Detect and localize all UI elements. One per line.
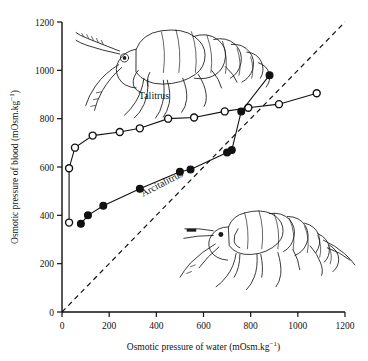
x-ticklabel-0: 0 xyxy=(60,321,65,331)
x-axis-ticks xyxy=(62,312,345,317)
datapoint-talitrus-10 xyxy=(275,101,282,108)
x-ticklabel-600: 600 xyxy=(196,321,211,331)
datapoint-arcitalitrus-8 xyxy=(238,108,245,115)
figure-container: TalitrusArcitalitrus 0200400600800100012… xyxy=(0,0,368,361)
x-ticklabel-200: 200 xyxy=(102,321,117,331)
amphipod-drawing-bottom xyxy=(180,211,355,290)
datapoint-talitrus-1 xyxy=(66,165,73,172)
datapoint-talitrus-5 xyxy=(136,125,143,132)
talitrus-label: Talitrus xyxy=(139,90,170,101)
x-ticklabel-1200: 1200 xyxy=(336,321,355,331)
series-line-arcitalitrus xyxy=(81,75,270,224)
y-ticklabel-1000: 1000 xyxy=(35,66,54,76)
x-axis-title: Osmotic pressure of water (mOsm.kg−1) xyxy=(127,340,280,353)
y-axis-title-exponent: −1 xyxy=(8,93,16,101)
datapoint-arcitalitrus-9 xyxy=(266,72,273,79)
y-axis-ticks xyxy=(57,22,62,312)
x-ticklabel-800: 800 xyxy=(244,321,259,331)
datapoint-talitrus-3 xyxy=(89,132,96,139)
y-ticklabel-1200: 1200 xyxy=(35,18,54,28)
y-ticklabel-600: 600 xyxy=(40,163,55,173)
x-ticklabel-400: 400 xyxy=(149,321,164,331)
datapoint-talitrus-2 xyxy=(71,144,78,151)
datapoint-arcitalitrus-2 xyxy=(100,202,107,209)
x-ticklabel-1000: 1000 xyxy=(288,321,307,331)
isosmotic-reference-line xyxy=(62,22,345,312)
isosmotic-line xyxy=(62,22,345,312)
datapoint-talitrus-8 xyxy=(221,108,228,115)
y-axis-title: Osmotic pressure of blood (mOsm.kg−1) xyxy=(8,90,21,244)
chart-svg: TalitrusArcitalitrus 0200400600800100012… xyxy=(0,0,368,361)
datapoint-arcitalitrus-5 xyxy=(187,166,194,173)
datapoint-arcitalitrus-0 xyxy=(77,220,84,227)
y-ticklabel-400: 400 xyxy=(40,211,55,221)
datapoint-talitrus-6 xyxy=(165,115,172,122)
datapoint-talitrus-7 xyxy=(191,114,198,121)
y-ticklabel-0: 0 xyxy=(49,308,54,318)
amphipod-drawing-top xyxy=(76,30,270,118)
x-axis-title-exponent: −1 xyxy=(270,340,278,348)
y-ticklabel-800: 800 xyxy=(40,114,55,124)
series-arcitalitrus xyxy=(77,72,272,227)
axis-text-group: 0200400600800100012000200400600800100012… xyxy=(8,18,355,354)
y-ticklabel-200: 200 xyxy=(40,259,55,269)
datapoint-arcitalitrus-1 xyxy=(85,212,92,219)
datapoint-talitrus-11 xyxy=(313,90,320,97)
datapoint-talitrus-4 xyxy=(116,128,123,135)
datapoint-arcitalitrus-7 xyxy=(228,147,235,154)
datapoint-talitrus-0 xyxy=(66,219,73,226)
data-series-group xyxy=(66,72,321,227)
